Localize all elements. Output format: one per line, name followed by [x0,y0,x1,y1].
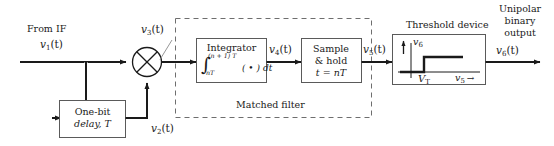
sample-hold-line-3: t = nT [301,67,361,79]
delay-output-wire [126,83,148,118]
threshold-x-axis-arrow: → [465,73,475,83]
out-v6-arg: (t) [506,44,518,56]
integrator-output-label: v4(t) [269,43,292,57]
vt-subscript: T [425,78,430,86]
v4-arg: (t) [279,43,291,55]
v3-arg: (t) [151,23,163,35]
output-description: Unipolar binary output [490,3,550,39]
integrator-expression: ∫ (n + 1) T nT ( • ) dt [201,55,211,75]
threshold-x-axis-label: v5→ [455,73,474,85]
v2-arg: (t) [161,122,173,134]
integral-upper-limit: (n + 1) T [208,52,236,59]
delay-output-label: v2(t) [151,122,174,136]
delay-line-2: delay, T [59,118,126,130]
integral-integrand: ( • ) dt [242,63,272,73]
integral-lower-limit: nT [206,69,214,76]
output-line-1: Unipolar [490,3,550,15]
delay-line-1: One-bit [59,106,126,118]
output-line-3: output [490,27,550,39]
sample-hold-line-2: & hold [301,55,361,67]
one-bit-delay-label: One-bit delay, T [59,106,126,130]
mixer-output-label: v3(t) [141,23,164,37]
block-diagram: From IF v1(t) v3(t) One-bit delay, T v2(… [0,0,554,146]
v1-arg: (t) [50,38,62,50]
input-source-label: From IF [27,24,66,35]
sample-hold-output-label: v5(t) [363,43,386,57]
v5-arg: (t) [373,43,385,55]
v3-leader-line [160,40,172,60]
output-signal-label: v6(t) [496,44,519,58]
output-line-2: binary [490,15,550,27]
threshold-v6-subscript: 6 [418,41,422,49]
sample-hold-label: Sample & hold t = nT [301,43,361,79]
threshold-y-axis-label: v6 [413,37,423,49]
threshold-value-label: VT [418,73,430,86]
input-signal-label: v1(t) [40,38,63,52]
matched-filter-caption: Matched filter [236,100,305,111]
sample-hold-line-1: Sample [301,43,361,55]
threshold-device-caption: Threshold device [406,20,489,31]
